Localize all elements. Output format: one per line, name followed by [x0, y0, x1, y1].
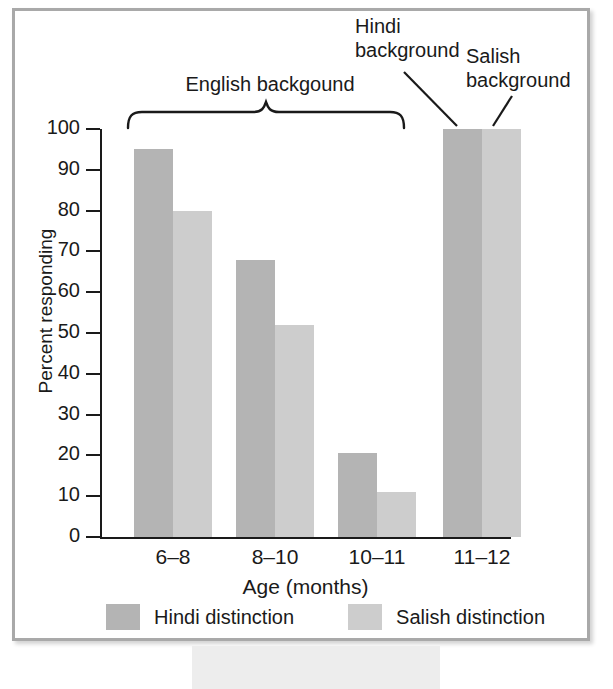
y-tick-mark — [86, 536, 100, 538]
x-axis-line — [100, 537, 511, 539]
y-axis-line — [100, 129, 102, 539]
y-tick-mark — [86, 128, 100, 130]
y-tick-10: 10 — [0, 495, 100, 497]
bar-salish-distinction-10–11 — [377, 492, 416, 537]
bar-hindi-distinction-11–12 — [443, 129, 482, 537]
annotation-hindi-line1: Hindi — [355, 14, 495, 38]
y-tick-100: 100 — [0, 128, 100, 130]
y-tick-mark — [86, 454, 100, 456]
bar-hindi-distinction-10–11 — [338, 453, 377, 537]
legend-swatch — [348, 604, 382, 630]
bar-hindi-distinction-6–8 — [134, 149, 173, 537]
y-tick-label: 20 — [34, 443, 80, 463]
y-tick-20: 20 — [0, 454, 100, 456]
x-category-label-8–10: 8–10 — [216, 545, 334, 569]
legend-label: Salish distinction — [396, 606, 545, 629]
bar-salish-distinction-8–10 — [275, 325, 314, 537]
x-axis-title: Age (months) — [100, 575, 511, 599]
y-tick-mark — [86, 250, 100, 252]
y-tick-mark — [86, 495, 100, 497]
bar-salish-distinction-11–12 — [482, 129, 521, 537]
y-tick-label: 100 — [34, 117, 80, 137]
bar-salish-distinction-6–8 — [173, 211, 212, 537]
annotation-salish-line1: Salish — [466, 44, 606, 68]
y-tick-0: 0 — [0, 536, 100, 538]
legend-label: Hindi distinction — [154, 606, 294, 629]
y-tick-mark — [86, 291, 100, 293]
chart-legend: Hindi distinctionSalish distinction — [106, 604, 545, 630]
y-tick-mark — [86, 332, 100, 334]
y-tick-mark — [86, 169, 100, 171]
legend-item-hindi-distinction: Hindi distinction — [106, 604, 294, 630]
y-tick-mark — [86, 210, 100, 212]
y-axis-title: Percent responding — [35, 181, 57, 441]
y-tick-label: 0 — [34, 525, 80, 545]
legend-swatch — [106, 604, 140, 630]
bar-chart: 1009080706050403020100 Percent respondin… — [0, 0, 613, 689]
y-tick-90: 90 — [0, 169, 100, 171]
legend-item-salish-distinction: Salish distinction — [348, 604, 545, 630]
annotation-salish-background: Salish background — [466, 44, 606, 92]
y-tick-label: 90 — [34, 158, 80, 178]
annotation-english-background: English backgound — [140, 72, 400, 96]
x-category-label-6–8: 6–8 — [114, 545, 232, 569]
y-tick-mark — [86, 373, 100, 375]
x-category-label-11–12: 11–12 — [423, 545, 541, 569]
bar-hindi-distinction-8–10 — [236, 260, 275, 537]
y-tick-mark — [86, 414, 100, 416]
x-category-label-10–11: 10–11 — [318, 545, 436, 569]
y-tick-label: 10 — [34, 484, 80, 504]
annotation-salish-line2: background — [466, 68, 606, 92]
